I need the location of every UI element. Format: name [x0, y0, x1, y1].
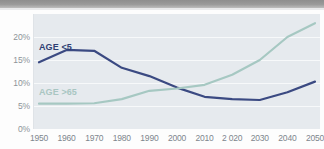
series-label-age-over-65: AGE >65	[39, 87, 77, 97]
x-axis-tick-label: 2050	[306, 133, 324, 143]
y-axis-tick-label: 20%	[0, 33, 30, 42]
series-line	[39, 50, 315, 100]
series-line	[39, 23, 315, 104]
x-axis-tick-label: 1990	[140, 133, 158, 143]
x-axis-tick-label: 2010	[196, 133, 214, 143]
x-axis-tick-label: 2040	[278, 133, 296, 143]
x-axis-tick-labels: 19501960197019801990200020102 0202030204…	[34, 133, 320, 147]
x-axis-tick-label: 1970	[85, 133, 103, 143]
x-axis-tick-label: 1960	[58, 133, 76, 143]
plot-area	[34, 14, 320, 129]
series-group	[34, 14, 320, 129]
x-axis-tick-label: 2000	[168, 133, 186, 143]
y-axis-tick-labels: 0%5%10%15%20%	[0, 10, 30, 133]
chart-screenshot: 0%5%10%15%20% 19501960197019801990200020…	[0, 0, 324, 149]
y-axis-tick-label: 10%	[0, 79, 30, 88]
y-axis-tick-label: 0%	[0, 125, 30, 134]
x-axis-tick-label: 2030	[251, 133, 269, 143]
y-axis-tick-label: 15%	[0, 56, 30, 65]
line-chart: 0%5%10%15%20% 19501960197019801990200020…	[0, 10, 324, 149]
x-axis-tick-label: 2 020	[222, 133, 242, 143]
y-axis-tick-label: 5%	[0, 102, 30, 111]
x-axis-tick-label: 1980	[113, 133, 131, 143]
x-axis-tick-label: 1950	[30, 133, 48, 143]
series-label-age-under-5: AGE <5	[39, 42, 72, 52]
cropped-header-bar	[0, 0, 324, 8]
